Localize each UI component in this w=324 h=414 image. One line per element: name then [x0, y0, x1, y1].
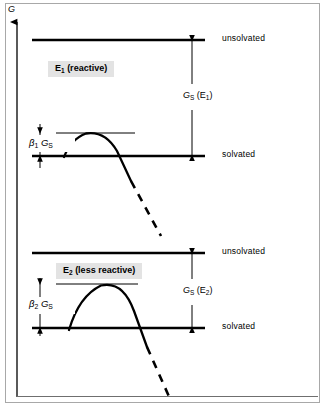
e2-species-subscript: 2 [69, 269, 73, 276]
e2-curve-dashed-tail [147, 347, 171, 401]
e1-unsolvated-label: unsolvated [222, 34, 265, 43]
e1-gap-g: G [183, 90, 190, 100]
e2-gap-g-subscript: S [190, 289, 194, 296]
e2-barrier-g-subscript: S [48, 303, 53, 310]
e1-reaction-coordinate-curve [64, 133, 161, 236]
e1-species-subscript: 1 [61, 67, 65, 74]
e1-gap-label: GS (E1) [183, 91, 212, 100]
e2-barrier-beta-subscript: 2 [34, 303, 38, 310]
e2-species-note: (less reactive) [73, 265, 136, 275]
e1-gap-arg-close: ) [209, 90, 212, 100]
e1-species-label: E1 (reactive) [48, 61, 114, 77]
e2-gap-arg-subscript: 2 [206, 289, 210, 296]
e2-reaction-coordinate-curve [69, 285, 171, 401]
e2-solvated-label: solvated [222, 322, 255, 331]
e1-barrier-g: G [38, 137, 48, 148]
e1-barrier-beta-subscript: 1 [34, 142, 38, 149]
g-axis-label: G [8, 5, 15, 14]
e1-solvated-label: solvated [222, 150, 255, 159]
e2-barrier-label: β2 GS [29, 299, 53, 309]
e1-gap-arg-open: (E [194, 90, 206, 100]
e1-gap-arg-subscript: 1 [206, 94, 210, 101]
e1-gap-g-subscript: S [190, 94, 194, 101]
e2-barrier-g: G [38, 298, 48, 309]
e2-gap-label: GS (E2) [183, 286, 212, 295]
energy-diagram-figure: G unsolvated solvated E1 (reactive) GS (… [0, 0, 324, 414]
axis-frame [16, 22, 318, 397]
e2-gap-g: G [183, 285, 190, 295]
e1-species-note: (reactive) [65, 63, 108, 73]
e2-unsolvated-label: unsolvated [222, 247, 265, 256]
e2-gap-arg-open: (E [194, 285, 206, 295]
e1-barrier-label: β1 GS [29, 138, 53, 148]
e2-species-label: E2 (less reactive) [56, 263, 142, 279]
e1-curve-dashed-tail [131, 181, 161, 236]
e1-barrier-g-subscript: S [48, 142, 53, 149]
e2-gap-arg-close: ) [209, 285, 212, 295]
